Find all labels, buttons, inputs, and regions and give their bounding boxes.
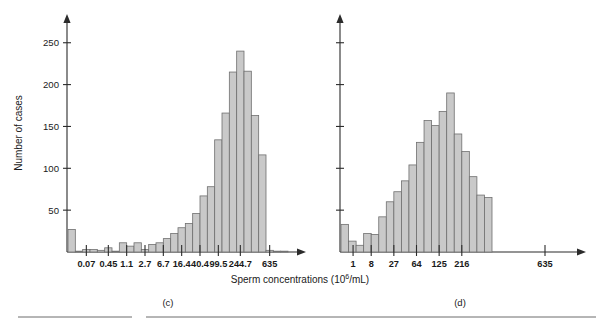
histogram-bar [447,93,455,252]
panel-c-bars [68,51,288,252]
x-tick-label: 40.4 [191,259,210,269]
panel-d-bars [341,93,492,252]
histogram-bar [149,244,156,252]
histogram-bar [469,177,477,252]
histogram-bar [356,245,364,252]
panel-c-y-axis-arrow [63,14,70,23]
x-axis-title-tail: /mL) [349,274,369,285]
x-tick-label: 1.1 [120,259,133,269]
histogram-bar [200,196,207,252]
panel-d-chart: 182764125216635 [336,14,586,269]
histogram-bar [97,250,104,252]
x-tick-label: 16.4 [173,259,192,269]
histogram-bar [193,214,200,253]
histogram-bar [207,187,214,252]
x-tick-label: 216 [454,259,469,269]
histogram-bar [112,251,119,252]
histogram-bar [462,152,470,252]
histogram-bar [386,202,394,252]
histogram-bar [371,234,379,252]
x-tick-label: 0.07 [77,259,95,269]
histogram-bar [215,140,222,252]
histogram-bar [163,239,170,252]
histogram-bar [432,126,440,252]
x-tick-label: 635 [262,259,277,269]
y-tick-label: 100 [43,163,59,174]
y-tick-label: 250 [43,37,59,48]
histogram-bar [417,142,425,252]
histogram-bar [251,116,258,252]
histogram-bar [484,198,492,252]
histogram-bar [259,155,266,252]
histogram-bar [229,72,236,252]
panel-d-caption: (d) [454,297,466,308]
x-tick-label: 8 [369,259,374,269]
histogram-bar [156,243,163,252]
y-tick-label: 200 [43,79,59,90]
histogram-bar [439,111,447,252]
panel-c-caption: (c) [162,297,173,308]
panel-c-x-axis-arrow [297,248,306,255]
histogram-bar [424,121,432,252]
histogram-bar [477,195,485,252]
histogram-bar [90,249,97,252]
histogram-bar [273,251,280,252]
x-tick-label: 1 [351,259,356,269]
panel-d-y-axis-arrow [336,14,343,23]
y-tick-label: 150 [43,121,59,132]
histogram-bar [364,234,372,252]
histogram-bar [394,192,402,252]
x-tick-label: 27 [389,259,399,269]
x-tick-label: 99.5 [209,259,227,269]
histogram-bar [237,51,244,252]
histogram-bar [171,234,178,252]
x-tick-label: 244.7 [229,259,252,269]
histogram-figure: 50100150200250 0.070.451.12.76.716.440.4… [0,0,602,322]
x-axis-title-main: Sperm concentrations (10 [231,274,346,285]
histogram-bar [222,113,229,252]
histogram-bar [401,181,409,252]
histogram-bar [75,251,82,252]
histogram-bar [185,224,192,252]
histogram-bar [454,134,462,252]
shared-x-axis-title: Sperm concentrations (106/mL) [231,273,369,285]
x-tick-label: 6.7 [157,259,170,269]
histogram-bar [409,165,417,252]
panel-c-chart: 50100150200250 0.070.451.12.76.716.440.4… [13,14,306,269]
panel-c-y-axis-title: Number of cases [13,95,24,171]
x-tick-label: 0.45 [99,259,117,269]
histogram-bar [379,217,387,252]
histogram-bar [349,241,357,252]
x-tick-label: 635 [537,259,552,269]
figure-container: 50100150200250 0.070.451.12.76.716.440.4… [0,0,602,322]
histogram-bar [68,229,75,252]
x-tick-label: 2.7 [139,259,152,269]
histogram-bar [281,251,288,252]
x-tick-label: 125 [431,259,446,269]
histogram-bar [119,243,126,252]
histogram-bar [134,243,141,252]
histogram-bar [127,246,134,252]
histogram-bar [341,224,349,252]
panel-d-x-axis-arrow [577,248,586,255]
y-tick-label: 50 [48,205,59,216]
histogram-bar [244,71,251,252]
x-tick-label: 64 [411,259,422,269]
